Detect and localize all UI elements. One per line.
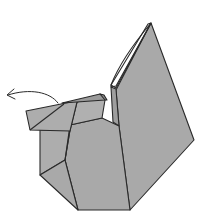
fold-arrow-curve [8, 92, 58, 103]
origami-diagram: Origami squirrel folding step [0, 0, 206, 222]
tail-panel [116, 23, 194, 210]
origami-figure [0, 0, 206, 222]
fold-arrow [7, 89, 58, 103]
